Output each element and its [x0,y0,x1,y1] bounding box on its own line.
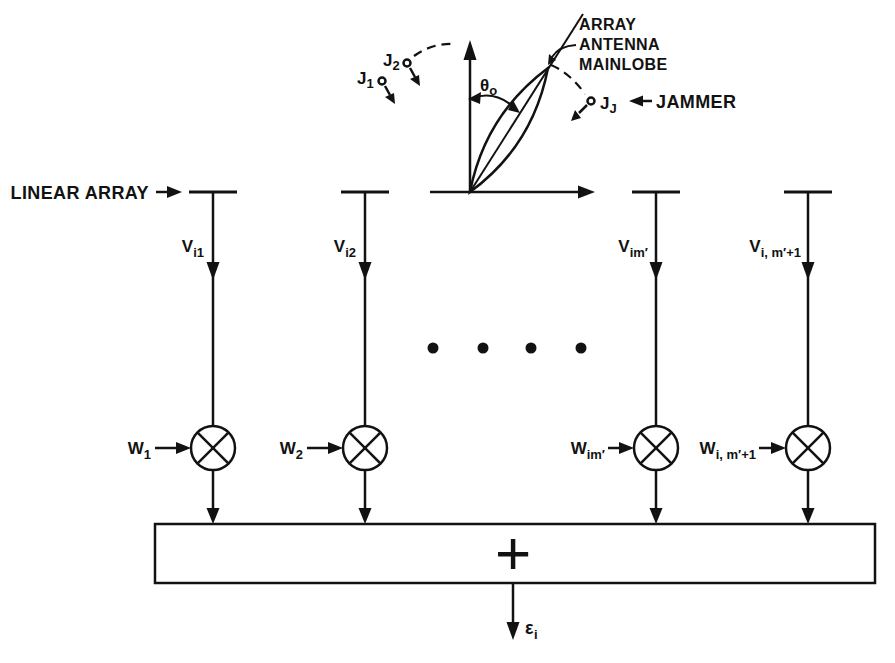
weight-label: W2 [280,439,303,462]
weight-arrowhead-icon [771,442,786,454]
jammer-jj-direction-line [579,105,587,113]
signal-label: Vi1 [182,237,204,260]
jammer-jj-marker-icon [588,98,595,105]
jammer-j1-label: J1 [357,69,374,91]
signal-label: Vim′ [618,237,648,260]
weight-label: Wim′ [571,439,605,462]
channel-3: Vim′ Wim′ [571,192,680,524]
mainlobe-axis-line [470,14,583,192]
summer: + [155,518,875,587]
antenna-pattern: θo ARRAY ANTENNA MAINLOBE J2 J1 JJ [357,14,736,199]
jammer-arc-left-dashed [414,44,454,56]
summer-feed-arrowhead-icon [650,508,663,524]
adaptive-array-figure: θo ARRAY ANTENNA MAINLOBE J2 J1 JJ [0,0,895,663]
mainlobe-label-line2: ANTENNA [579,36,660,53]
mainlobe-label-line3: MAINLOBE [579,56,668,73]
mainlobe-label-line1: ARRAY [579,16,636,33]
jammer-j1-marker-icon [379,78,386,85]
output: εi [507,583,538,642]
channel-1: Vi1 W1 [128,192,237,524]
jammer-j2-marker-icon [404,60,411,67]
ellipsis-dots [428,343,587,354]
output-label: εi [525,618,538,642]
signal-arrowhead-icon [650,262,663,280]
channel-2: Vi2 W2 [280,192,389,524]
jammer-j2-label: J2 [383,51,400,73]
signal-arrowhead-icon [207,262,220,280]
ellipsis-dot-icon [576,343,587,354]
ellipsis-dot-icon [478,343,489,354]
jammer-j1-direction-line [385,86,390,95]
vertical-axis-arrowhead-icon [464,40,477,60]
weight-arrowhead-icon [176,442,191,454]
weight-arrowhead-icon [328,442,343,454]
weight-arrowhead-icon [619,442,634,454]
linear-array-label: LINEAR ARRAY [11,183,149,203]
horizontal-axis-arrowhead-icon [578,186,595,199]
summer-plus-symbol: + [495,518,531,587]
figure-canvas: θo ARRAY ANTENNA MAINLOBE J2 J1 JJ [0,0,895,663]
theta-label: θo [480,76,497,98]
linear-array-callout: LINEAR ARRAY [11,183,182,203]
summer-feed-arrowhead-icon [359,508,372,524]
jammer-jj: JJ JAMMER [571,92,736,121]
jammer-word-label: JAMMER [656,92,736,112]
channel-4: Vi, m′+1 Wi, m′+1 [700,192,832,524]
signal-arrowhead-icon [802,262,815,280]
summer-feed-arrowhead-icon [802,508,815,524]
weight-label: Wi, m′+1 [700,439,756,462]
weight-label: W1 [128,439,151,462]
mainlobe-callout-leader [552,45,576,57]
signal-arrowhead-icon [359,262,372,280]
jammer-j2-direction-line [410,68,415,77]
linear-array-arrowhead-icon [167,186,182,198]
theta-arc-right-arrowhead-icon [508,100,520,113]
signal-label: Vi, m′+1 [749,237,801,260]
jammer-callout-arrowhead-icon [629,96,643,107]
signal-label: Vi2 [334,237,356,260]
jammer-jj-label: JJ [600,94,617,116]
output-arrowhead-icon [507,622,520,640]
ellipsis-dot-icon [526,343,537,354]
ellipsis-dot-icon [428,343,439,354]
summer-feed-arrowhead-icon [207,508,220,524]
jammer-j1: J1 [357,69,395,104]
